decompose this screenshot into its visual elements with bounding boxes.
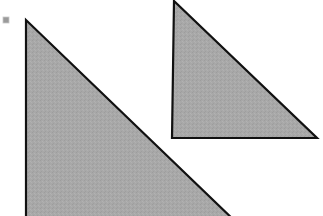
corner-square-marker — [3, 17, 9, 23]
triangles-figure — [0, 0, 323, 216]
figure-canvas — [0, 0, 323, 216]
